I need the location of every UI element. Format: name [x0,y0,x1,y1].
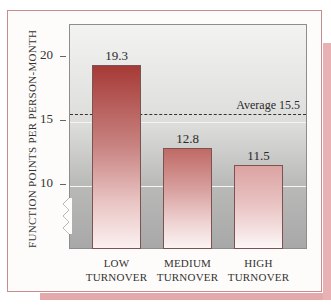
x-tick-label: MEDIUMTURNOVER [153,256,223,284]
bar-value-label: 11.5 [229,148,289,164]
card-shadow-bottom [40,293,331,300]
bar [92,65,141,249]
x-tick-label-line: LOW [82,256,152,270]
x-tick-label-line: HIGH [224,256,294,270]
card-shadow-right [323,43,331,300]
x-tick-label-line: MEDIUM [153,256,223,270]
bar-value-label: 19.3 [87,48,147,64]
bar [163,148,212,249]
x-tick-label: LOWTURNOVER [82,256,152,284]
y-tick-label: 10 [40,175,60,191]
axis-break-icon [62,198,72,234]
bar-value-label: 12.8 [158,131,218,147]
y-tick-label: 20 [40,47,60,63]
average-label: Average 15.5 [236,98,300,113]
y-tick [60,120,66,121]
y-axis-label: FUNCTION POINTS PER PERSON-MONTH [26,48,38,248]
x-tick-label-line: TURNOVER [153,270,223,284]
bar [234,165,283,249]
y-tick-label: 15 [40,111,60,127]
x-tick-label-line: TURNOVER [224,270,294,284]
y-tick [60,56,66,57]
x-tick-label-line: TURNOVER [82,270,152,284]
y-tick [60,184,66,185]
x-tick-label: HIGHTURNOVER [224,256,294,284]
